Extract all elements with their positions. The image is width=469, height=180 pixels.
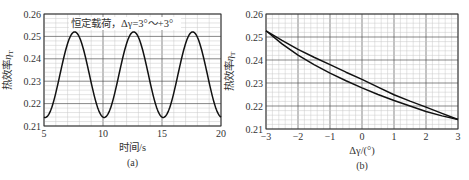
x-tick-label: 20 — [216, 128, 226, 139]
y-tick-label: 0.24 — [24, 53, 42, 64]
y-axis-label: 热效率ηT — [223, 51, 237, 91]
x-tick-label: 10 — [98, 128, 108, 139]
figure: 0.210.220.230.240.250.265101520时间/s(a)热效… — [0, 0, 469, 180]
y-tick-label: 0.26 — [24, 9, 42, 20]
y-axis-label: 热效率ηT — [1, 50, 15, 90]
x-tick-label: 2 — [424, 131, 429, 142]
y-tick-label: 0.22 — [246, 101, 264, 112]
y-tick-label: 0.22 — [24, 98, 42, 109]
panel-sublabel: (b) — [356, 160, 368, 172]
x-tick-label: −3 — [261, 131, 272, 142]
y-tick-label: 0.25 — [24, 31, 42, 42]
x-tick-label: 0 — [360, 131, 365, 142]
chart-panel-a: 0.210.220.230.240.250.265101520时间/s(a)热效… — [1, 9, 226, 170]
x-tick-label: −2 — [293, 131, 304, 142]
x-axis-label: Δγ/(°) — [349, 145, 375, 157]
x-tick-label: 15 — [157, 128, 167, 139]
y-tick-label: 0.21 — [24, 121, 42, 132]
y-tick-label: 0.25 — [246, 32, 264, 43]
plot-area — [44, 14, 221, 126]
x-tick-label: 5 — [42, 128, 47, 139]
chart-panel-b: 0.210.220.230.240.250.26−3−2−10123Δγ/(°)… — [223, 9, 461, 173]
y-tick-label: 0.23 — [24, 76, 42, 87]
annotation-label: 恒定载荷，Δγ=3°～+3° — [71, 17, 173, 29]
y-tick-label: 0.26 — [246, 9, 264, 20]
x-tick-label: −1 — [325, 131, 336, 142]
x-tick-label: 1 — [392, 131, 397, 142]
x-axis-label: 时间/s — [119, 141, 146, 153]
x-tick-label: 3 — [456, 131, 461, 142]
panel-sublabel: (a) — [127, 157, 138, 169]
y-tick-label: 0.24 — [246, 55, 264, 66]
y-tick-label: 0.23 — [246, 78, 264, 89]
